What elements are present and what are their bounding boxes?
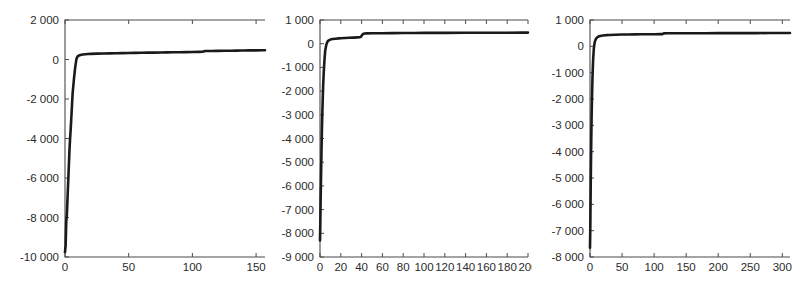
panel-1-axis-box <box>65 20 265 257</box>
y-tick-label: -8 000 <box>26 212 59 224</box>
y-tick-label: -1 000 <box>281 61 314 73</box>
chart-panel-1-svg: 2 0000-2 000-4 000-6 000-8 000-10 000 05… <box>0 0 270 297</box>
y-tick-label: -6 000 <box>26 172 59 184</box>
x-tick-label: 80 <box>397 261 410 273</box>
figure-three-convergence-plots: 2 0000-2 000-4 000-6 000-8 000-10 000 05… <box>0 0 812 297</box>
x-tick-label: 250 <box>741 261 760 273</box>
y-tick-label: 0 <box>53 54 59 66</box>
panel-3-axes <box>590 20 790 257</box>
y-tick-label: -7 000 <box>281 204 314 216</box>
y-tick-label: -4 000 <box>26 133 59 145</box>
y-tick-label: -8 000 <box>281 227 314 239</box>
panel-1-x-ticks: 050100150 <box>62 20 266 273</box>
x-tick-label: 50 <box>122 261 135 273</box>
x-tick-label: 60 <box>376 261 389 273</box>
chart-panel-2-svg: 1 0000-1 000-2 000-3 000-4 000-5 000-6 0… <box>270 0 532 297</box>
y-tick-label: -7 000 <box>551 225 584 237</box>
x-tick-label: 140 <box>456 261 475 273</box>
chart-panel-2: 1 0000-1 000-2 000-3 000-4 000-5 000-6 0… <box>270 0 532 297</box>
panel-3-series-line <box>590 33 790 248</box>
x-tick-label: 180 <box>498 261 517 273</box>
panel-1-series-line <box>65 50 265 252</box>
panel-2-series-line <box>320 33 528 241</box>
x-tick-label: 0 <box>62 261 68 273</box>
y-tick-label: -4 000 <box>551 146 584 158</box>
y-tick-label: -8 000 <box>551 251 584 263</box>
x-tick-label: 150 <box>246 261 265 273</box>
chart-panel-1: 2 0000-2 000-4 000-6 000-8 000-10 000 05… <box>0 0 270 297</box>
y-tick-label: 2 000 <box>30 14 59 26</box>
panel-3-axis-box <box>590 20 790 257</box>
y-tick-label: -1 000 <box>551 67 584 79</box>
x-tick-label: 20 <box>334 261 347 273</box>
panel-2-y-ticks: 1 0000-1 000-2 000-3 000-4 000-5 000-6 0… <box>281 14 324 263</box>
y-tick-label: -5 000 <box>551 172 584 184</box>
y-tick-label: -6 000 <box>551 198 584 210</box>
chart-panel-3: 1 0000-1 000-2 000-3 000-4 000-5 000-6 0… <box>532 0 812 297</box>
y-tick-label: -3 000 <box>281 109 314 121</box>
x-tick-label: 160 <box>477 261 496 273</box>
panel-3-x-ticks: 050100150200250300 <box>587 20 792 273</box>
y-tick-label: -6 000 <box>281 180 314 192</box>
y-tick-label: -2 000 <box>26 93 59 105</box>
chart-panel-3-svg: 1 0000-1 000-2 000-3 000-4 000-5 000-6 0… <box>532 0 812 297</box>
y-tick-label: 1 000 <box>285 14 314 26</box>
y-tick-label: -9 000 <box>281 251 314 263</box>
x-tick-label: 100 <box>183 261 202 273</box>
y-tick-label: -5 000 <box>281 156 314 168</box>
y-tick-label: 0 <box>578 40 584 52</box>
y-tick-label: 1 000 <box>555 14 584 26</box>
panel-1-axes <box>65 20 265 257</box>
x-tick-label: 100 <box>414 261 433 273</box>
x-tick-label: 150 <box>677 261 696 273</box>
y-tick-label: -2 000 <box>551 93 584 105</box>
x-tick-label: 0 <box>317 261 323 273</box>
x-tick-label: 200 <box>518 261 532 273</box>
y-tick-label: -10 000 <box>20 251 59 263</box>
panel-2-axis-box <box>320 20 528 257</box>
y-tick-label: 0 <box>308 38 314 50</box>
x-tick-label: 200 <box>709 261 728 273</box>
panel-2-x-ticks: 020406080100120140160180200 <box>317 20 532 273</box>
x-tick-label: 40 <box>355 261 368 273</box>
y-tick-label: -3 000 <box>551 119 584 131</box>
panel-3-y-ticks: 1 0000-1 000-2 000-3 000-4 000-5 000-6 0… <box>551 14 594 263</box>
y-tick-label: -4 000 <box>281 133 314 145</box>
y-tick-label: -2 000 <box>281 85 314 97</box>
x-tick-label: 120 <box>435 261 454 273</box>
panel-1-y-ticks: 2 0000-2 000-4 000-6 000-8 000-10 000 <box>20 14 69 263</box>
x-tick-label: 100 <box>645 261 664 273</box>
x-tick-label: 50 <box>616 261 629 273</box>
panel-2-axes <box>320 20 528 257</box>
x-tick-label: 0 <box>587 261 593 273</box>
x-tick-label: 300 <box>773 261 792 273</box>
